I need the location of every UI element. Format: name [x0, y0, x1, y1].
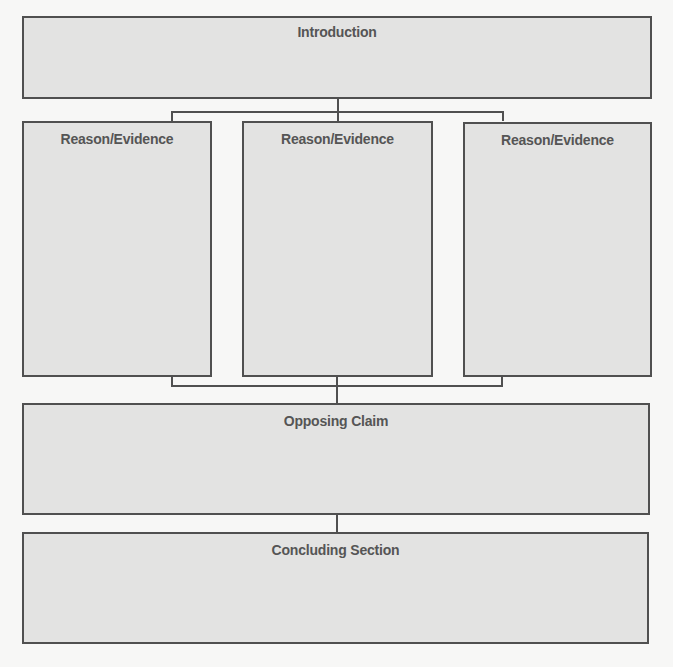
connector-top-mid-drop: [337, 111, 339, 121]
reason-box-2: Reason/Evidence: [242, 121, 433, 377]
introduction-box: Introduction: [22, 16, 652, 99]
reason-title-2: Reason/Evidence: [244, 131, 431, 147]
opposing-claim-box: Opposing Claim: [22, 403, 650, 515]
reason-box-1: Reason/Evidence: [22, 121, 212, 377]
introduction-title: Introduction: [24, 24, 650, 40]
connector-bottom-mid: [336, 377, 338, 403]
connector-top-right-drop: [502, 111, 504, 121]
reason-title-3: Reason/Evidence: [465, 132, 650, 148]
opposing-claim-title: Opposing Claim: [24, 413, 648, 429]
concluding-section-title: Concluding Section: [24, 542, 647, 558]
reason-title-1: Reason/Evidence: [24, 131, 210, 147]
reason-box-3: Reason/Evidence: [463, 122, 652, 377]
connector-top-left-drop: [171, 111, 173, 121]
connector-opposing-conclusion: [336, 515, 338, 532]
connector-intro-stem: [337, 99, 339, 111]
concluding-section-box: Concluding Section: [22, 532, 649, 644]
